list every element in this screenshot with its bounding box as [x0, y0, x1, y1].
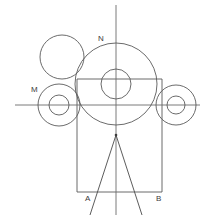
technical-drawing-figure: N M A B [0, 0, 208, 220]
label-m: M [31, 86, 38, 94]
drawing-canvas [0, 0, 208, 220]
upper-left-circle [40, 35, 84, 79]
label-n: N [98, 35, 104, 43]
vee-left-line [90, 135, 116, 215]
vee-right-line [116, 135, 142, 215]
label-b: B [156, 195, 161, 203]
vee-apex-node [115, 134, 118, 137]
body-frame-rect [77, 79, 162, 192]
label-a: A [85, 195, 90, 203]
